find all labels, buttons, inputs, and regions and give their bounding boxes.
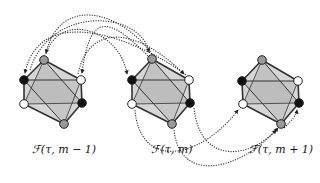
oct-m-minus-1	[24, 60, 82, 124]
label-oct-m-minus-1: ℱ(τ, m − 1)	[32, 143, 96, 156]
octahedra-group	[24, 59, 299, 124]
node-black-left-upper	[128, 76, 137, 85]
node-black-right-lower	[186, 99, 195, 108]
node-white-right-upper	[77, 76, 86, 85]
node-gray-bottom	[277, 120, 286, 129]
oct-m-plus-1	[242, 60, 299, 124]
node-white-left-lower	[239, 100, 248, 109]
label-oct-m: ℱ(τ, m)	[151, 143, 192, 156]
oct-m	[132, 59, 190, 124]
node-gray-top	[258, 56, 267, 65]
node-gray-bottom	[60, 120, 69, 129]
node-gray-bottom	[168, 120, 177, 129]
node-white-right-upper	[294, 77, 303, 86]
node-white-left-lower	[128, 100, 137, 109]
node-black-right-lower	[78, 99, 87, 108]
node-white-left-lower	[20, 100, 29, 109]
label-oct-m-plus-1: ℱ(τ, m + 1)	[249, 143, 313, 156]
node-gray-top	[40, 56, 49, 65]
node-gray-top	[148, 55, 157, 64]
node-white-right-upper	[185, 76, 194, 85]
node-black-left-upper	[20, 76, 29, 85]
node-black-left-upper	[238, 77, 247, 86]
node-black-right-lower	[295, 99, 304, 108]
